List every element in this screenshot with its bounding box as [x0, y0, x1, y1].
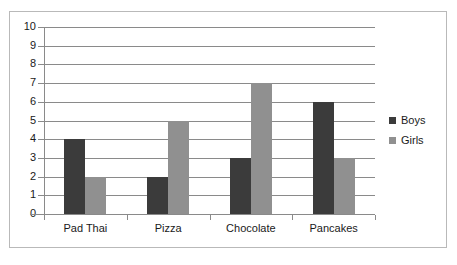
x-tick-mark [127, 215, 128, 220]
bar-girls-pad-thai [85, 177, 106, 214]
legend-swatch-icon [389, 117, 396, 124]
y-tick-mark [38, 158, 44, 159]
x-axis-label-pancakes: Pancakes [292, 222, 375, 234]
y-tick-label: 10 [10, 21, 36, 32]
gridline [44, 64, 375, 65]
x-tick-mark [375, 215, 376, 220]
legend-label: Boys [401, 115, 425, 126]
x-axis-label-pad-thai: Pad Thai [44, 222, 127, 234]
y-tick-mark [38, 214, 44, 215]
y-tick-label: 2 [10, 171, 36, 182]
y-tick-label: 7 [10, 77, 36, 88]
y-axis-tick-labels: 012345678910 [4, 0, 36, 265]
y-tick-label: 1 [10, 189, 36, 200]
legend-item-girls[interactable]: Girls [389, 130, 449, 150]
legend-item-boys[interactable]: Boys [389, 110, 449, 130]
y-tick-mark [38, 139, 44, 140]
x-tick-mark [292, 215, 293, 220]
x-axis-label-pizza: Pizza [127, 222, 210, 234]
legend-swatch-icon [389, 137, 396, 144]
y-tick-mark [38, 121, 44, 122]
y-tick-label: 9 [10, 40, 36, 51]
x-axis-label-chocolate: Chocolate [210, 222, 293, 234]
y-tick-label: 3 [10, 152, 36, 163]
bar-boys-pad-thai [64, 139, 85, 214]
y-tick-mark [38, 177, 44, 178]
x-axis-line [30, 214, 375, 215]
y-tick-label: 6 [10, 96, 36, 107]
y-tick-mark [38, 64, 44, 65]
y-tick-mark [38, 27, 44, 28]
y-tick-mark [38, 102, 44, 103]
bar-girls-chocolate [251, 83, 272, 214]
chart-legend: BoysGirls [389, 110, 449, 150]
plot-area [44, 27, 375, 214]
bar-boys-chocolate [230, 158, 251, 214]
gridline [44, 27, 375, 28]
bar-boys-pizza [147, 177, 168, 214]
y-tick-mark [38, 46, 44, 47]
y-tick-mark [38, 83, 44, 84]
y-tick-label: 8 [10, 58, 36, 69]
bar-girls-pizza [168, 121, 189, 215]
x-tick-mark [210, 215, 211, 220]
legend-label: Girls [401, 135, 424, 146]
y-tick-label: 4 [10, 133, 36, 144]
x-tick-mark [44, 215, 45, 220]
gridline [44, 46, 375, 47]
gridline [44, 83, 375, 84]
y-tick-label: 5 [10, 115, 36, 126]
bar-girls-pancakes [334, 158, 355, 214]
bar-boys-pancakes [313, 102, 334, 214]
y-tick-mark [38, 195, 44, 196]
